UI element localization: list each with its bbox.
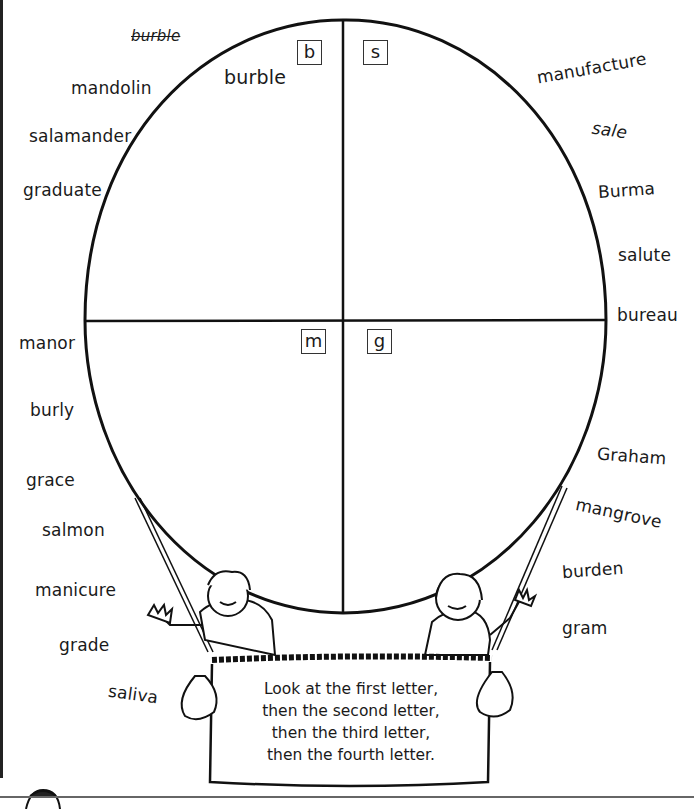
boy-figure [148, 571, 275, 655]
balloon-outline [85, 20, 606, 613]
word-grade: grade [59, 635, 109, 655]
quadrant-label-top-left: b [297, 40, 322, 65]
word-mandolin: mandolin [71, 78, 152, 98]
instruction-text: Look at the first letter, then the secon… [216, 678, 486, 766]
balloon-divider-horizontal [85, 320, 606, 321]
instruction-line-4: then the fourth letter. [216, 744, 486, 766]
word-burma: Burma [597, 178, 655, 202]
quadrant-label-top-right: s [363, 40, 388, 65]
crossed-out-example-word: burble [131, 27, 180, 45]
footer-divider [0, 796, 694, 798]
word-salmon: salmon [42, 520, 105, 540]
word-salamander: salamander [29, 126, 131, 146]
basket-rim [212, 656, 492, 660]
instruction-line-1: Look at the first letter, [216, 678, 486, 700]
quadrant-label-bottom-left: m [301, 329, 326, 354]
word-salute: salute [618, 245, 671, 265]
word-burden: burden [561, 558, 624, 582]
word-manor: manor [19, 333, 75, 353]
quadrant-label-bottom-right: g [367, 329, 392, 354]
instruction-line-3: then the third letter, [216, 722, 486, 744]
word-gram: gram [562, 618, 608, 638]
word-bureau: bureau [617, 305, 678, 325]
word-manicure: manicure [35, 580, 116, 600]
sandbag-left [182, 676, 217, 719]
word-graduate: graduate [23, 180, 102, 200]
word-grace: grace [26, 470, 75, 490]
instruction-line-2: then the second letter, [216, 700, 486, 722]
word-burly: burly [30, 400, 74, 420]
placed-example-word: burble [224, 66, 286, 88]
